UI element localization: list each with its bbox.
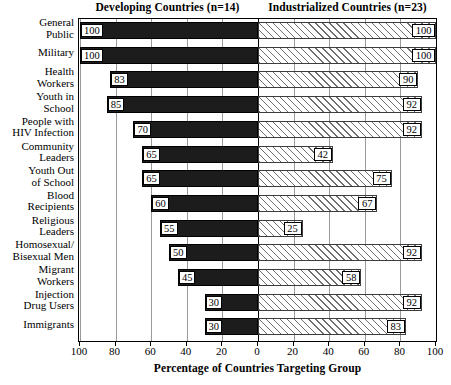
category-label: Youth Out of School — [0, 165, 74, 188]
tick-label-left-20: 20 — [206, 345, 236, 358]
chart-row: 6542 — [79, 146, 436, 163]
category-label: Religious Leaders — [0, 215, 74, 238]
category-label: Youth in School — [0, 91, 74, 114]
category-label: Migrant Workers — [0, 264, 74, 287]
tick-label-left-40: 40 — [171, 345, 201, 358]
bar-value-industrialized: 92 — [403, 98, 421, 111]
bar-value-industrialized: 90 — [399, 73, 417, 86]
bar-developing — [110, 71, 258, 88]
bar-value-developing: 65 — [143, 148, 160, 161]
tick-label-right-40: 40 — [313, 345, 343, 358]
chart-container: Developing Countries (n=14) Industrializ… — [0, 0, 451, 385]
tick-label-right-20: 20 — [278, 345, 308, 358]
chart-row: 3092 — [79, 294, 436, 311]
chart-row: 4558 — [79, 269, 436, 286]
chart-row: 100100 — [79, 22, 436, 39]
plot-area: 1001001001008390859270926542657560675525… — [78, 18, 437, 342]
bar-value-developing: 83 — [111, 73, 128, 86]
bar-industrialized — [258, 96, 422, 113]
chart-row: 6575 — [79, 170, 436, 187]
bar-developing — [80, 47, 258, 64]
category-label: Health Workers — [0, 66, 74, 89]
category-label: Injection Drug Users — [0, 289, 74, 312]
bar-value-developing: 55 — [161, 222, 178, 235]
bar-value-industrialized: 83 — [387, 320, 405, 333]
bar-value-industrialized: 92 — [403, 123, 421, 136]
bar-value-developing: 100 — [81, 49, 103, 62]
bar-value-industrialized: 100 — [412, 24, 435, 37]
bar-value-developing: 85 — [108, 98, 125, 111]
tick-label-left-80: 80 — [100, 345, 130, 358]
bar-value-industrialized: 92 — [403, 246, 421, 259]
x-axis-title: Percentage of Countries Targeting Group — [78, 362, 437, 374]
tick-label-left-60: 60 — [135, 345, 165, 358]
bar-developing — [133, 121, 258, 138]
category-axis: General PublicMilitaryHealth WorkersYout… — [0, 18, 74, 342]
chart-row: 7092 — [79, 121, 436, 138]
bar-value-industrialized: 75 — [373, 172, 391, 185]
bar-industrialized — [258, 47, 436, 64]
tick-label-left-100: 100 — [64, 345, 94, 358]
category-label: People with HIV Infection — [0, 116, 74, 139]
chart-row: 8390 — [79, 71, 436, 88]
bar-value-industrialized: 67 — [358, 197, 376, 210]
bar-value-developing: 65 — [143, 172, 160, 185]
category-label: Blood Recipients — [0, 190, 74, 213]
bar-value-developing: 30 — [206, 296, 223, 309]
category-label: Military — [0, 47, 74, 59]
bar-value-developing: 100 — [81, 24, 103, 37]
chart-row: 6067 — [79, 195, 436, 212]
bar-industrialized — [258, 244, 422, 261]
x-axis-tick-labels: 10080604020020406080100 — [0, 345, 451, 360]
bar-value-developing: 50 — [170, 246, 187, 259]
tick-label-right-100: 100 — [420, 345, 450, 358]
chart-row: 3083 — [79, 318, 436, 335]
bar-industrialized — [258, 170, 392, 187]
tick-label-right-60: 60 — [349, 345, 379, 358]
chart-row: 5525 — [79, 220, 436, 237]
category-label: Homosexual/ Bisexual Men — [0, 239, 74, 262]
category-label: Community Leaders — [0, 141, 74, 164]
bar-value-industrialized: 58 — [342, 271, 360, 284]
bar-developing — [107, 96, 258, 113]
category-label: General Public — [0, 17, 74, 40]
panel-heading-developing: Developing Countries (n=14) — [78, 1, 257, 13]
tick-label-right-80: 80 — [384, 345, 414, 358]
bar-industrialized — [258, 318, 406, 335]
bar-value-industrialized: 25 — [284, 222, 302, 235]
panel-heading-industrialized: Industrialized Countries (n=23) — [257, 1, 438, 13]
bar-value-developing: 70 — [134, 123, 151, 136]
bar-developing — [80, 22, 258, 39]
bar-industrialized — [258, 71, 418, 88]
category-label: Immigrants — [0, 319, 74, 331]
chart-row: 8592 — [79, 96, 436, 113]
bar-value-developing: 45 — [179, 271, 196, 284]
bar-value-industrialized: 92 — [403, 296, 421, 309]
chart-row: 5092 — [79, 244, 436, 261]
bar-industrialized — [258, 294, 422, 311]
bar-industrialized — [258, 121, 422, 138]
bar-value-industrialized: 100 — [412, 49, 435, 62]
tick-label-left-0: 0 — [242, 345, 272, 358]
chart-row: 100100 — [79, 47, 436, 64]
bar-value-developing: 30 — [206, 320, 223, 333]
bar-value-developing: 60 — [152, 197, 169, 210]
bar-industrialized — [258, 22, 436, 39]
bar-value-industrialized: 42 — [314, 148, 332, 161]
